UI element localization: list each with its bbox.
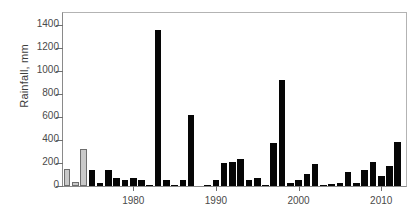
bar-1978 [113, 178, 120, 186]
plot-area: 0200400600800100012001400 19801990200020… [62, 12, 407, 187]
bar-1975 [89, 170, 96, 186]
x-tick-label: 1990 [205, 195, 227, 206]
bar-1990 [213, 180, 220, 186]
x-tick-mark [216, 186, 217, 191]
bar-1996 [262, 185, 269, 186]
bar-2000 [295, 180, 302, 186]
bar-1976 [97, 183, 104, 186]
bar-1974 [80, 149, 87, 186]
y-tick-label: 200 [25, 156, 59, 167]
bar-1994 [246, 180, 253, 186]
x-tick-mark [381, 186, 382, 191]
bar-2012 [394, 142, 401, 186]
bar-1999 [287, 183, 294, 186]
bar-2003 [320, 185, 327, 186]
bar-1982 [146, 185, 153, 186]
bar-2006 [345, 172, 352, 186]
bar-1972 [64, 169, 71, 186]
bar-2007 [353, 183, 360, 186]
bar-1981 [138, 180, 145, 186]
x-tick-mark [299, 186, 300, 191]
bar-1984 [163, 180, 170, 186]
bar-1977 [105, 170, 112, 186]
bar-1993 [237, 159, 244, 186]
bar-1983 [155, 30, 162, 186]
bar-2008 [361, 170, 368, 186]
bar-1998 [279, 80, 286, 186]
bar-1979 [122, 180, 129, 186]
bar-1995 [254, 178, 261, 186]
bar-2004 [328, 184, 335, 186]
bar-2005 [337, 183, 344, 186]
y-tick-label: 400 [25, 133, 59, 144]
bar-2002 [312, 164, 319, 186]
bar-1991 [221, 163, 228, 186]
bar-1973 [72, 182, 79, 186]
y-tick-label: 1000 [25, 64, 59, 75]
x-tick-mark [133, 186, 134, 191]
rainfall-bar-chart: Rainfall, mm 0200400600800100012001400 1… [0, 0, 418, 219]
bar-1987 [188, 115, 195, 187]
bar-2010 [378, 176, 385, 186]
bar-1986 [180, 180, 187, 186]
y-tick-label: 1400 [25, 18, 59, 29]
bar-1989 [204, 185, 211, 186]
bar-1985 [171, 185, 178, 186]
y-tick-label: 600 [25, 110, 59, 121]
bar-2009 [370, 162, 377, 186]
bar-1980 [130, 178, 137, 186]
x-tick-label: 2010 [370, 195, 392, 206]
bar-1997 [270, 143, 277, 186]
y-tick-label: 1200 [25, 41, 59, 52]
bar-1992 [229, 162, 236, 186]
x-tick-label: 2000 [287, 195, 309, 206]
y-tick-label: 800 [25, 87, 59, 98]
bar-2011 [386, 166, 393, 186]
x-tick-label: 1980 [122, 195, 144, 206]
bar-2001 [304, 174, 311, 186]
y-tick-label: 0 [25, 179, 59, 190]
